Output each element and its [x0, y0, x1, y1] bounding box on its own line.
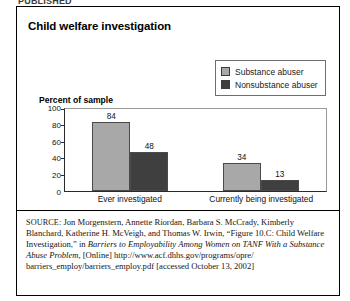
- bar-holder-nonsubstance-abuser: 13: [261, 109, 299, 191]
- bar-holder-nonsubstance-abuser: 48: [130, 109, 168, 191]
- source-note: SOURCE: Jon Morgenstern, Annette Riordan…: [26, 217, 330, 272]
- source-note-line-5: barriers_employ/barriers_employ.pdf [acc…: [26, 261, 254, 271]
- chart-legend: Substance abuser Nonsubstance abuser: [215, 60, 326, 96]
- bar-ever-investigated-substance-abuser: [92, 122, 130, 191]
- legend-label-nonsubstance-abuser: Nonsubstance abuser: [235, 80, 318, 90]
- bar-value-34: 34: [223, 153, 261, 162]
- source-note-italic-1: Barriers to: [88, 239, 126, 249]
- cropped-page-header: PUBLISHED: [18, 0, 138, 5]
- bar-currently-being-investigated-nonsubstance-abuser: [261, 180, 299, 191]
- chart-title: Child welfare investigation: [28, 20, 171, 32]
- x-axis-category-labels: Ever investigated Currently being invest…: [64, 194, 327, 204]
- legend-label-substance-abuser: Substance abuser: [235, 67, 304, 77]
- source-divider: [17, 210, 339, 211]
- legend-swatch-nonsubstance-abuser: [221, 80, 230, 89]
- bar-group-bars: 84 48: [65, 109, 196, 191]
- legend-swatch-substance-abuser: [221, 67, 230, 76]
- y-tick-label-100: 100: [48, 104, 61, 113]
- legend-item-nonsubstance-abuser: Nonsubstance abuser: [221, 78, 318, 91]
- y-tick-label-80: 80: [52, 120, 61, 129]
- x-axis-label-currently-being-investigated: Currently being investigated: [196, 194, 328, 204]
- chart-card: Child welfare investigation Substance ab…: [16, 6, 340, 296]
- x-axis-label-ever-investigated: Ever investigated: [64, 194, 196, 204]
- source-note-line-4: [Online] http://www.acf.dhhs.gov/program…: [81, 250, 254, 260]
- plot-area: 84 48 34: [64, 108, 327, 192]
- bar-value-13: 13: [261, 170, 299, 179]
- y-tick-label-0: 0: [57, 188, 61, 197]
- source-note-line-1: Jon Morgenstern, Annette Riordan, Barbar…: [61, 217, 259, 227]
- bar-holder-substance-abuser: 84: [92, 109, 130, 191]
- y-tick-label-60: 60: [52, 137, 61, 146]
- y-tick-label-40: 40: [52, 154, 61, 163]
- bar-currently-being-investigated-substance-abuser: [223, 163, 261, 191]
- bar-group-currently-being-investigated: 34 13: [196, 109, 327, 191]
- bar-groups: 84 48 34: [65, 109, 326, 191]
- source-note-label: SOURCE:: [26, 218, 61, 227]
- bar-value-48: 48: [130, 142, 168, 151]
- bar-value-84: 84: [92, 112, 130, 121]
- y-tick-label-20: 20: [52, 171, 61, 180]
- y-axis-labels: 100 80 60 40 20 0: [41, 108, 61, 192]
- bar-ever-investigated-nonsubstance-abuser: [130, 152, 168, 191]
- bar-holder-substance-abuser: 34: [223, 109, 261, 191]
- bar-group-ever-investigated: 84 48: [65, 109, 196, 191]
- plot-wrapper: 100 80 60 40 20 0 84: [41, 108, 327, 192]
- source-note-italic-3: Problem,: [49, 250, 80, 260]
- bar-group-bars: 34 13: [196, 109, 327, 191]
- legend-item-substance-abuser: Substance abuser: [221, 65, 318, 78]
